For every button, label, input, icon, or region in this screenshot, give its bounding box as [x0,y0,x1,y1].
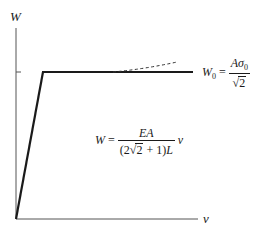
slope-denominator: (2√2 + 1)L [118,141,175,156]
slope-equals: = [108,133,115,147]
diagram-canvas [0,0,265,235]
plateau-denominator: √2 [229,74,250,89]
y-axis-label: W [10,10,21,23]
elastic-slope-equation: W = EA (2√2 + 1)L v [95,127,183,156]
x-axis-label: v [203,212,209,225]
slope-numerator: EA [118,127,175,141]
plateau-lhs-sub: 0 [212,72,216,81]
plateau-load-equation: W0 = Aσ0 √2 [202,57,250,89]
plateau-lhs: W [202,65,212,79]
plateau-equals: = [219,65,226,79]
slope-fraction: EA (2√2 + 1)L [118,127,175,156]
slope-variable: v [178,133,183,147]
slope-lhs: W [95,133,105,147]
plateau-numerator: Aσ0 [229,57,250,74]
hardening-dashed-curve [113,62,177,72]
elastic-segment [16,72,43,219]
plateau-fraction: Aσ0 √2 [229,57,250,89]
